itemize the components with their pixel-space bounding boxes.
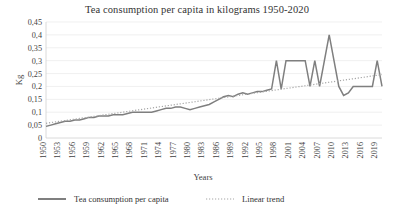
x-axis-tick-labels: 1950195319561959196219651968197119741977… xyxy=(39,142,379,158)
y-axis-title: Kg xyxy=(14,74,24,85)
x-axis-tick-label: 1989 xyxy=(226,142,235,158)
x-axis-tick-label: 1965 xyxy=(111,142,120,158)
x-axis-tick-label: 1956 xyxy=(68,142,77,158)
x-axis-tick-label: 2001 xyxy=(284,142,293,158)
y-axis-tick-label: 0,4 xyxy=(32,31,42,40)
chart-legend: Tea consumption per capita Linear trend xyxy=(38,194,285,204)
x-axis-tick-label: 1992 xyxy=(241,142,250,158)
legend-label-trend: Linear trend xyxy=(242,194,285,204)
x-axis-tick-label: 1953 xyxy=(53,142,62,158)
y-axis-tick-label: 0,45 xyxy=(28,18,42,27)
x-axis-tick-label: 1971 xyxy=(140,142,149,158)
y-axis-tick-label: 0,05 xyxy=(28,121,42,130)
chart-plot-area: 00,050,10,150,20,250,30,350,40,45 195019… xyxy=(0,0,394,219)
y-axis-tick-label: 0,35 xyxy=(28,44,42,53)
x-axis-tick-label: 2010 xyxy=(327,142,336,158)
y-axis-tick-label: 0,2 xyxy=(32,82,42,91)
y-axis-tick-label: 0,25 xyxy=(28,70,42,79)
x-axis-tick-label: 1998 xyxy=(269,142,278,158)
x-axis-tick-label: 1950 xyxy=(39,142,48,158)
x-axis-tick-label: 2007 xyxy=(313,142,322,158)
x-axis-tick-label: 2004 xyxy=(298,142,307,158)
x-axis-title: Years xyxy=(193,172,213,182)
legend-label-series: Tea consumption per capita xyxy=(74,194,169,204)
x-axis-tick-label: 1980 xyxy=(183,142,192,158)
gridlines-group xyxy=(46,22,382,138)
series-line-path xyxy=(46,35,382,127)
chart-figure: Tea consumption per capita in kilograms … xyxy=(0,0,394,219)
x-axis-tick-label: 2016 xyxy=(356,142,365,158)
x-axis-tick-label: 1977 xyxy=(169,142,178,158)
x-axis-tick-label: 2019 xyxy=(370,142,379,158)
y-axis-tick-labels: 00,050,10,150,20,250,30,350,40,45 xyxy=(28,18,42,143)
y-axis-tick-label: 0 xyxy=(38,134,42,143)
y-axis-tick-label: 0,15 xyxy=(28,95,42,104)
x-axis-tick-label: 1968 xyxy=(125,142,134,158)
x-axis-tick-label: 1995 xyxy=(255,142,264,158)
y-axis-tick-label: 0,1 xyxy=(32,108,42,117)
x-axis-tick-label: 1974 xyxy=(154,142,163,158)
x-axis-tick-label: 1986 xyxy=(212,142,221,158)
x-axis-tick-label: 2013 xyxy=(341,142,350,158)
x-axis-tick-label: 1962 xyxy=(97,142,106,158)
x-axis-tick-label: 1959 xyxy=(82,142,91,158)
data-series-group xyxy=(46,35,382,127)
y-axis-tick-label: 0,3 xyxy=(32,57,42,66)
x-axis-tick-label: 1983 xyxy=(197,142,206,158)
